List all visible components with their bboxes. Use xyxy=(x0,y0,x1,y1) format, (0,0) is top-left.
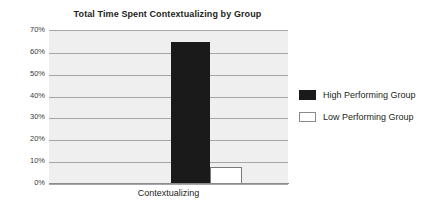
x-axis-category-label: Contextualizing xyxy=(49,188,288,198)
y-axis: 70%60%50%40%30%20%10%0% xyxy=(0,0,45,212)
y-axis-tick-label: 10% xyxy=(3,157,45,165)
gridline xyxy=(49,53,288,54)
gridline xyxy=(49,184,288,185)
chart-container: Total Time Spent Contextualizing by Grou… xyxy=(0,0,433,212)
y-axis-tick-label: 70% xyxy=(3,26,45,34)
plot-area xyxy=(49,30,288,184)
gridline xyxy=(49,97,288,98)
x-axis-baseline xyxy=(49,183,289,184)
gridline xyxy=(49,162,288,163)
gridline xyxy=(49,118,288,119)
y-axis-tick-label: 20% xyxy=(3,135,45,143)
legend-label-low: Low Performing Group xyxy=(323,112,414,122)
chart-legend: High Performing Group Low Performing Gro… xyxy=(299,86,429,130)
legend-label-high: High Performing Group xyxy=(323,90,416,100)
legend-swatch-icon-high xyxy=(299,90,316,100)
y-axis-tick-label: 60% xyxy=(3,48,45,56)
y-axis-tick-label: 0% xyxy=(3,179,45,187)
legend-swatch-icon-low xyxy=(299,112,316,122)
bar-high-performing xyxy=(171,42,210,184)
y-axis-tick-label: 50% xyxy=(3,70,45,78)
chart-title: Total Time Spent Contextualizing by Grou… xyxy=(40,9,295,19)
legend-item-high-performing: High Performing Group xyxy=(299,86,429,103)
bar-low-performing xyxy=(210,167,242,184)
y-axis-tick-label: 40% xyxy=(3,92,45,100)
y-axis-tick-label: 30% xyxy=(3,113,45,121)
gridline xyxy=(49,75,288,76)
gridline xyxy=(49,140,288,141)
legend-item-low-performing: Low Performing Group xyxy=(299,108,429,125)
